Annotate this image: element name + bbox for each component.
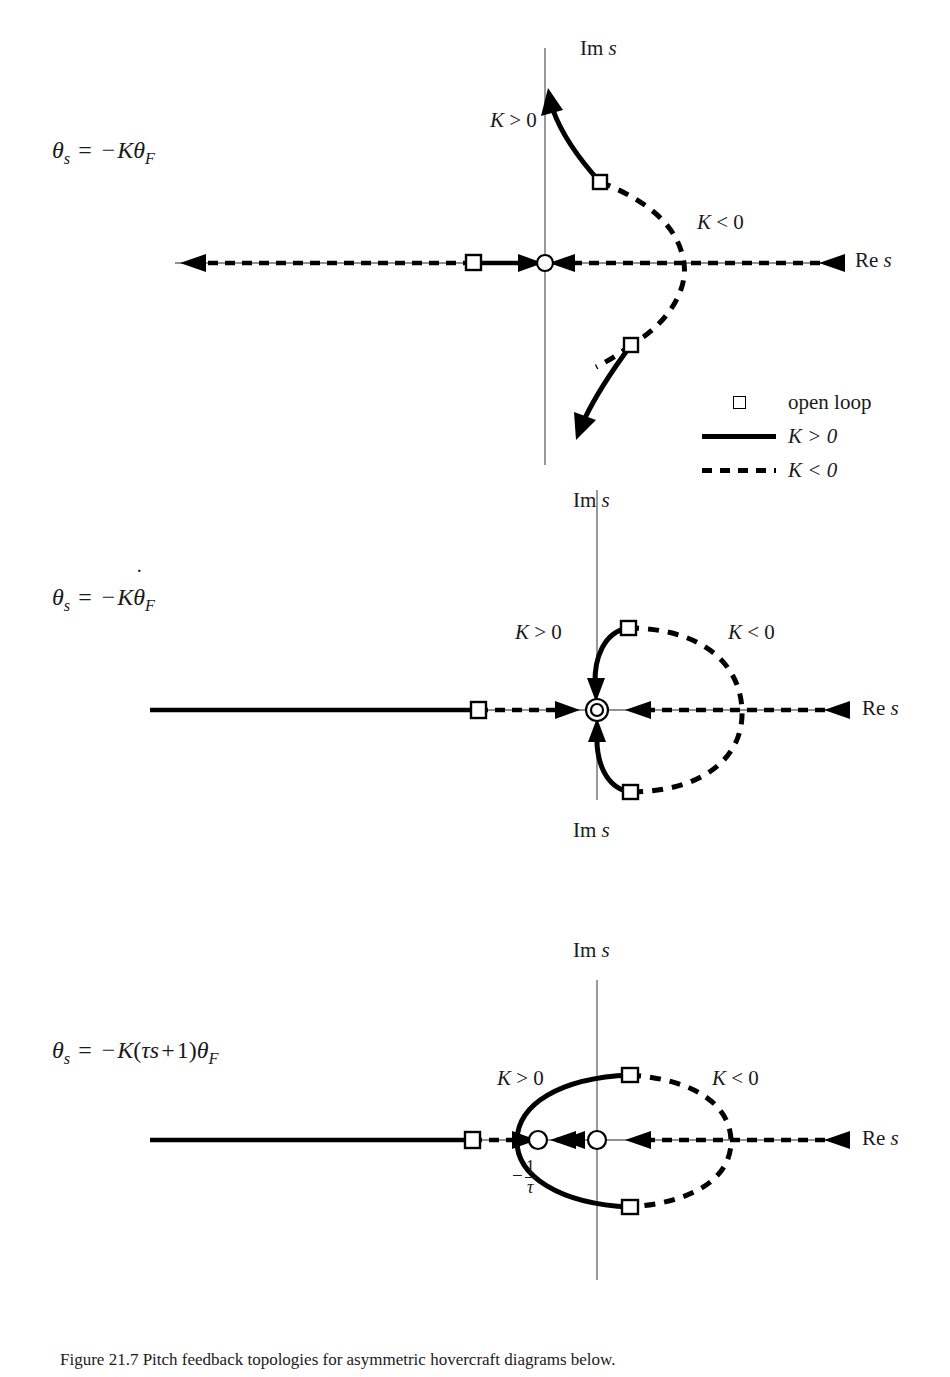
open-loop-pole-origin-3 <box>588 1131 606 1149</box>
axis-label-imag-1: Im s <box>580 38 617 59</box>
open-loop-square-upper-1 <box>593 175 607 189</box>
open-loop-square-lower-2 <box>623 785 638 799</box>
open-loop-double-pole-inner-2 <box>591 704 603 716</box>
plot-3-canvas <box>0 980 950 1280</box>
figure-caption: Figure 21.7 Pitch feedback topologies fo… <box>60 1348 900 1373</box>
legend-swatch-square <box>700 396 778 409</box>
equation-label-2: θs = −K̇θF <box>52 585 155 614</box>
legend-swatch-dashed <box>700 468 778 473</box>
solid-line-icon <box>702 434 776 439</box>
open-loop-square-real-2 <box>471 702 486 718</box>
open-loop-square-real-3 <box>465 1132 480 1148</box>
locus-solid-lower-2 <box>597 735 630 792</box>
arrow-right-inbound-2 <box>625 701 651 719</box>
arrow-left-1 <box>180 254 206 272</box>
open-loop-square-upper-2 <box>621 621 636 635</box>
branch-label-kneg-3: K < 0 <box>712 1068 759 1089</box>
equation-label-3: θs = −K(τs+1)θF <box>52 1038 219 1067</box>
branch-label-kpos-2: K > 0 <box>515 622 562 643</box>
open-loop-square-upper-3 <box>622 1068 638 1082</box>
locus-solid-upper-2 <box>595 628 628 685</box>
square-marker-icon <box>733 396 746 409</box>
branch-label-kpos-1: K > 0 <box>490 110 537 131</box>
arrow-right-3 <box>824 1131 850 1149</box>
open-loop-square-lower-1 <box>624 338 638 352</box>
legend-label-k-negative: K < 0 <box>778 458 837 483</box>
root-locus-panel-2: θs = −K̇θF Im s Re s K > 0 K < 0 <box>0 480 950 800</box>
legend-label-k-positive: K > 0 <box>778 424 837 449</box>
arrow-right-inbound-3 <box>625 1131 651 1149</box>
locus-solid-lower-1 <box>585 345 631 418</box>
dashed-line-icon <box>702 468 776 473</box>
axis-label-real-3: Re s <box>862 1128 899 1149</box>
arrow-right-1 <box>819 254 845 272</box>
figure-root: θs = −KθF <box>0 0 950 1377</box>
arrow-lower-1 <box>574 412 596 440</box>
locus-solid-upper-1 <box>553 110 600 182</box>
open-loop-square-lower-3 <box>622 1200 638 1214</box>
axis-label-imag-2: Im s <box>573 490 610 511</box>
arrow-right-2 <box>824 701 850 719</box>
open-loop-square-real-1 <box>466 255 481 270</box>
legend: open loop K > 0 K < 0 <box>700 385 910 487</box>
arrow-inbound-origin-2 <box>555 701 580 719</box>
open-loop-zero-3 <box>529 1131 547 1149</box>
plot-2-canvas <box>0 480 950 800</box>
zero-axis-label-3: −1τ <box>510 1158 536 1197</box>
axis-label-imag-3: Im s <box>573 820 610 841</box>
legend-row-open-loop: open loop <box>700 385 910 419</box>
legend-swatch-solid <box>700 434 778 439</box>
open-loop-pole-origin-1 <box>537 255 553 271</box>
legend-label-open-loop: open loop <box>778 390 871 415</box>
axis-label-imag-3-top: Im s <box>573 940 610 961</box>
branch-label-kpos-3: K > 0 <box>497 1068 544 1089</box>
branch-label-kneg-2: K < 0 <box>728 622 775 643</box>
axis-label-real-1: Re s <box>855 250 892 271</box>
root-locus-panel-3: θs = −K(τs+1)θF Im s Re s K > 0 K < 0 −1… <box>0 980 950 1280</box>
legend-row-k-positive: K > 0 <box>700 419 910 453</box>
branch-label-kneg-1: K < 0 <box>697 212 744 233</box>
axis-label-real-2: Re s <box>862 698 899 719</box>
